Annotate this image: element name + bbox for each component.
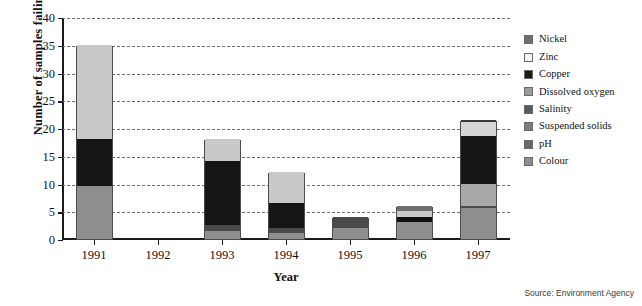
legend-label: pH — [539, 139, 552, 150]
legend-swatch-icon — [524, 157, 533, 166]
bar-1991[interactable] — [76, 46, 113, 240]
bar-segment-dissolved-oxygen[interactable] — [269, 172, 304, 203]
bar-segment-copper[interactable] — [461, 120, 496, 123]
legend-item-nickel[interactable]: Nickel — [524, 31, 640, 48]
bar-segment-salinity[interactable] — [269, 203, 304, 228]
x-tick-mark — [350, 240, 351, 245]
y-tick-mark — [58, 74, 63, 75]
y-tick-mark — [58, 101, 63, 102]
bar-segment-colour[interactable] — [333, 228, 368, 239]
legend-label: Suspended solids — [539, 121, 612, 132]
y-tick-label: 30 — [43, 66, 56, 81]
y-tick-mark — [58, 157, 63, 158]
bar-segment-colour[interactable] — [461, 208, 496, 239]
x-tick-mark — [94, 240, 95, 245]
legend-label: Dissolved oxygen — [539, 87, 615, 98]
bar-segment-salinity[interactable] — [77, 139, 112, 186]
y-tick-label: 40 — [43, 11, 56, 26]
legend-item-copper[interactable]: Copper — [524, 66, 640, 83]
y-tick-mark — [58, 240, 63, 241]
legend-item-suspended-solids[interactable]: Suspended solids — [524, 118, 640, 135]
bar-segment-suspended-solids[interactable] — [333, 217, 368, 228]
x-tick-label-1991: 1991 — [82, 248, 107, 263]
bar-1996[interactable] — [396, 207, 433, 240]
legend-swatch-icon — [524, 122, 533, 131]
y-tick-mark — [58, 46, 63, 47]
bar-segment-dissolved-oxygen[interactable] — [77, 45, 112, 139]
gridline — [62, 157, 510, 158]
gridline — [62, 101, 510, 102]
legend-swatch-icon — [524, 87, 533, 96]
y-tick-label: 5 — [49, 205, 55, 220]
bar-segment-suspended-solids[interactable] — [461, 206, 496, 209]
bar-1994[interactable] — [268, 173, 305, 240]
x-tick-mark — [478, 240, 479, 245]
bar-segment-colour[interactable] — [77, 186, 112, 239]
bar-segment-suspended-solids[interactable] — [269, 228, 304, 234]
x-tick-mark — [414, 240, 415, 245]
gridline — [62, 129, 510, 130]
x-axis-title: Year — [62, 270, 510, 285]
y-tick-label: 15 — [43, 149, 56, 164]
bar-1995[interactable] — [332, 218, 369, 240]
legend-item-zinc[interactable]: Zinc — [524, 48, 640, 65]
bar-segment-salinity[interactable] — [461, 136, 496, 183]
bar-segment-colour[interactable] — [397, 222, 432, 239]
legend-swatch-icon — [524, 35, 533, 44]
x-tick-mark — [158, 240, 159, 245]
legend-swatch-icon — [524, 53, 533, 62]
y-tick-mark — [58, 212, 63, 213]
legend-item-colour[interactable]: Colour — [524, 153, 640, 170]
legend-label: Nickel — [539, 34, 567, 45]
y-tick-mark — [58, 185, 63, 186]
bar-segment-zinc[interactable] — [461, 122, 496, 136]
plot-area: 0510152025303540 19911992199319941995199… — [62, 18, 510, 240]
bar-segment-suspended-solids[interactable] — [205, 225, 240, 231]
x-tick-mark — [222, 240, 223, 245]
bar-segment-copper[interactable] — [397, 217, 432, 223]
bar-segment-dissolved-oxygen[interactable] — [461, 184, 496, 206]
legend-swatch-icon — [524, 105, 533, 114]
x-tick-label-1993: 1993 — [210, 248, 235, 263]
y-tick-label: 35 — [43, 38, 56, 53]
legend-label: Salinity — [539, 104, 572, 115]
x-tick-mark — [286, 240, 287, 245]
x-tick-label-1994: 1994 — [274, 248, 299, 263]
bar-1997[interactable] — [460, 121, 497, 240]
bar-segment-dissolved-oxygen[interactable] — [205, 139, 240, 161]
bar-segment-salinity[interactable] — [205, 161, 240, 225]
legend-swatch-icon — [524, 70, 533, 79]
bar-segment-dissolved-oxygen[interactable] — [397, 211, 432, 217]
x-tick-label-1996: 1996 — [402, 248, 427, 263]
gridline — [62, 74, 510, 75]
y-tick-mark — [58, 18, 63, 19]
legend-item-salinity[interactable]: Salinity — [524, 101, 640, 118]
legend-swatch-icon — [524, 140, 533, 149]
bar-segment-colour[interactable] — [205, 231, 240, 239]
y-tick-label: 0 — [49, 233, 55, 248]
y-tick-label: 20 — [43, 122, 56, 137]
legend: NickelZincCopperDissolved oxygenSalinity… — [524, 31, 640, 170]
y-tick-mark — [58, 129, 63, 130]
chart-container: Number of samples failing 05101520253035… — [0, 0, 642, 306]
legend-item-ph[interactable]: pH — [524, 135, 640, 152]
gridline — [62, 46, 510, 47]
x-tick-label-1997: 1997 — [466, 248, 491, 263]
legend-item-dissolved-oxygen[interactable]: Dissolved oxygen — [524, 83, 640, 100]
y-tick-label: 25 — [43, 94, 56, 109]
bar-segment-colour[interactable] — [269, 233, 304, 239]
legend-label: Colour — [539, 156, 568, 167]
legend-label: Zinc — [539, 52, 558, 63]
bar-segment-nickel[interactable] — [397, 206, 432, 212]
x-tick-label-1995: 1995 — [338, 248, 363, 263]
bar-1993[interactable] — [204, 140, 241, 240]
y-tick-label: 10 — [43, 177, 56, 192]
legend-label: Copper — [539, 69, 570, 80]
gridline — [62, 18, 510, 19]
source-caption: Source: Environment Agency — [524, 288, 634, 298]
x-tick-label-1992: 1992 — [146, 248, 171, 263]
